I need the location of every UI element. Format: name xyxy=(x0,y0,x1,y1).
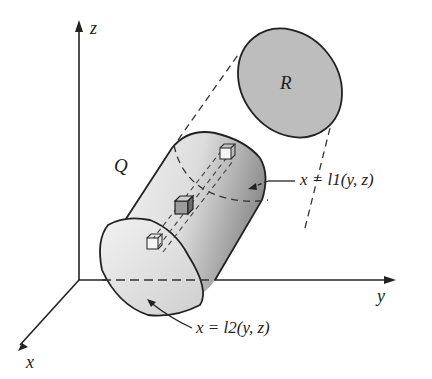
diagram: z y x R Q x = l1(y, z) x = l2(y, z) xyxy=(0,0,432,379)
y-arrowhead-icon xyxy=(384,276,396,284)
x-axis xyxy=(20,280,79,345)
z-axis-label: z xyxy=(90,18,97,39)
x-arrowhead-icon xyxy=(18,343,28,351)
x-axis-label: x xyxy=(26,352,34,373)
volume-element-cube-icon xyxy=(175,196,193,214)
y-axis-label: y xyxy=(377,286,385,307)
lower-surface-label: x = l2(y, z) xyxy=(196,318,270,338)
z-arrowhead-icon xyxy=(75,20,83,32)
region-R-label: R xyxy=(280,72,292,94)
upper-surface-label: x = l1(y, z) xyxy=(300,170,374,190)
solid-Q-label: Q xyxy=(114,155,128,177)
